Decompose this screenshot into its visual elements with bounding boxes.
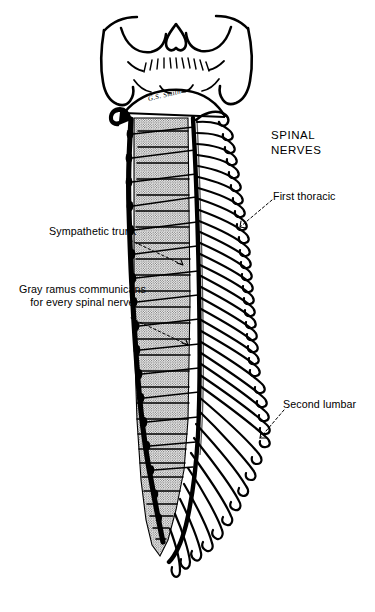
skull-base	[101, 16, 252, 117]
anatomical-figure: SPINAL NERVES First thoracic Second lumb…	[0, 0, 375, 612]
label-gray-ramus-communicans: Gray ramus communicans for every spinal …	[19, 283, 146, 309]
vertebral-column	[134, 118, 190, 556]
label-second-lumbar: Second lumbar	[283, 398, 356, 411]
label-spinal-nerves: SPINAL NERVES	[271, 128, 321, 158]
superior-nerve-hook	[196, 112, 228, 126]
label-first-thoracic: First thoracic	[273, 190, 336, 203]
nuchal-hatching	[144, 58, 209, 72]
label-sympathetic-trunk: Sympathetic trunk	[49, 225, 136, 238]
